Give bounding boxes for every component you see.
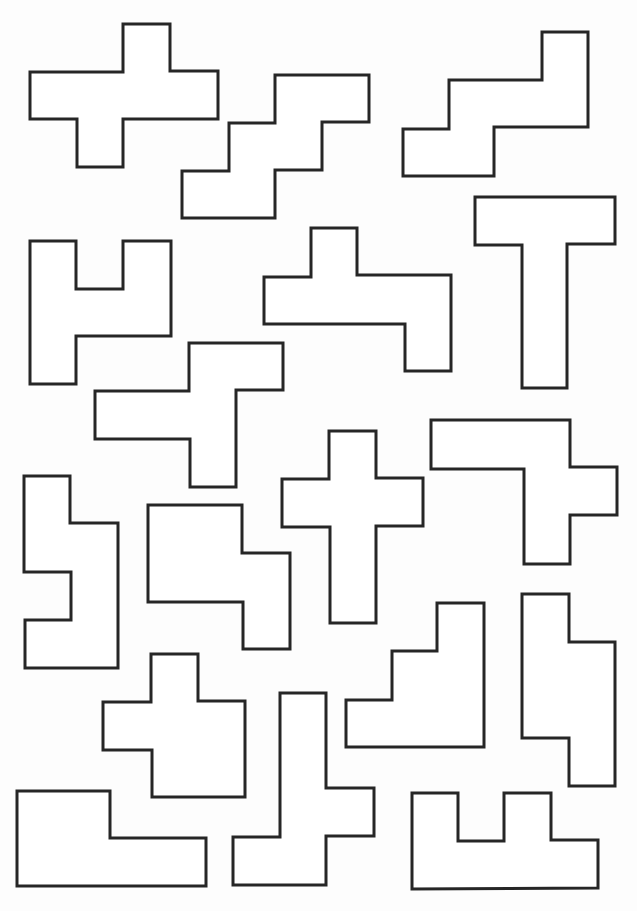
piece-s-zigzag-left	[24, 476, 118, 668]
piece-n-tall-right	[522, 594, 615, 786]
piece-x-cross-wide	[30, 24, 218, 167]
piece-t-tall	[475, 197, 615, 388]
piece-l-hook-right	[431, 420, 617, 564]
piece-n-step-right	[403, 32, 588, 176]
piece-l-long-bottom-left	[17, 791, 206, 886]
pentomino-canvas	[0, 0, 637, 911]
pentomino-worksheet	[0, 0, 637, 911]
piece-cross-plus	[282, 431, 423, 623]
piece-p-cross-bottom	[103, 654, 245, 797]
piece-p-block	[148, 505, 290, 649]
piece-v-stair-right	[346, 603, 484, 747]
piece-y-left	[95, 343, 283, 487]
piece-f-center	[264, 228, 451, 371]
piece-u-like-left	[30, 241, 171, 384]
piece-u-bottom-right	[412, 793, 598, 889]
